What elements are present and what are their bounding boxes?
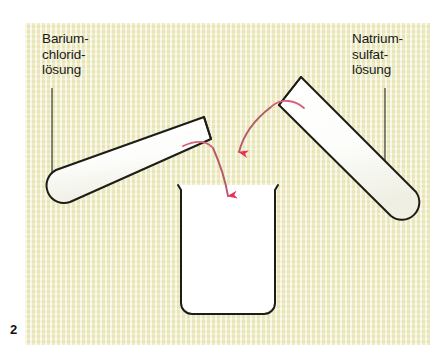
pour-arrow-from-right-tube: [239, 107, 271, 152]
beaker: [178, 185, 278, 314]
label-sodium-sulfate-solution: Natrium- sulfat- lösung: [352, 31, 403, 78]
label-barium-chloride-solution: Barium- chlorid- lösung: [42, 31, 89, 78]
figure-root: Barium- chlorid- lösung Natrium- sulfat-…: [0, 0, 442, 364]
test-tube-tilted-right: [279, 77, 419, 220]
figure-number: 2: [10, 322, 17, 337]
